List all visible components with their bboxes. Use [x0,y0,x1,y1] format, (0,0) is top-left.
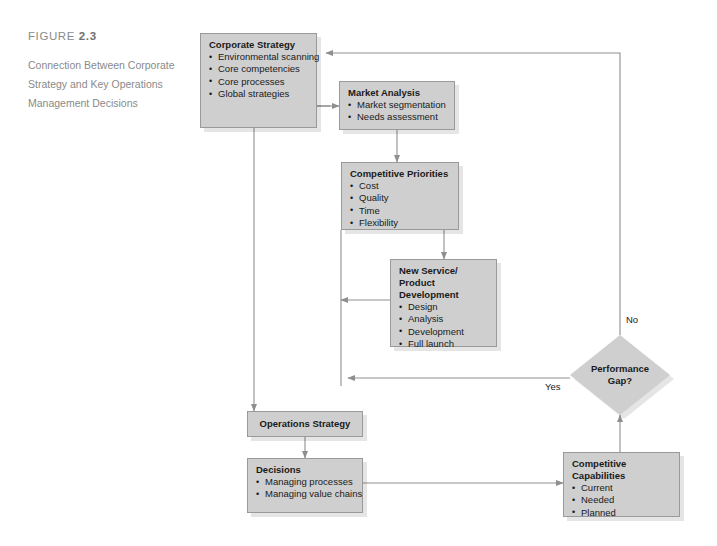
edge-label-no: No [626,314,638,325]
list-item: Market segmentation [348,99,447,111]
list-item: Development [399,326,489,338]
edge-label-yes: Yes [545,381,561,392]
list-item: Time [350,205,451,217]
node-corporate-strategy[interactable]: Corporate Strategy Environmental scannin… [200,33,317,128]
node-item-list: Market segmentation Needs assessment [348,99,447,124]
list-item: Managing value chains [256,488,355,500]
list-item: Quality [350,192,451,204]
list-item: Core processes [209,76,309,88]
node-title: Decisions [256,464,355,476]
list-item: Core competencies [209,63,309,75]
node-competitive-capabilities[interactable]: Competitive Capabilities Current Needed … [563,452,680,517]
figure-label-word: FIGURE [28,30,75,42]
figure-caption-text: Connection Between Corporate Strategy an… [28,56,188,113]
list-item: Needs assessment [348,111,447,123]
node-item-list: Environmental scanning Core competencies… [209,51,309,101]
node-item-list: Cost Quality Time Flexibility [350,180,451,230]
figure-page: FIGURE 2.3 Connection Between Corporate … [0,0,717,546]
list-item: Managing processes [256,476,355,488]
figure-label-number: 2.3 [79,30,97,42]
list-item: Full launch [399,338,489,350]
list-item: Planned [572,507,672,519]
figure-caption-line-2: Strategy and Key Operations [28,75,188,94]
list-item: Environmental scanning [209,51,309,63]
node-new-service-product-development[interactable]: New Service/ Product Development Design … [390,259,497,347]
node-item-list: Current Needed Planned [572,482,672,519]
figure-label: FIGURE 2.3 [28,30,188,42]
node-item-list: Design Analysis Development Full launch [399,301,489,351]
list-item: Current [572,482,672,494]
node-decisions[interactable]: Decisions Managing processes Managing va… [247,458,363,513]
node-title: Competitive Priorities [350,168,451,180]
node-performance-gap[interactable]: Performance Gap? [570,335,670,415]
node-title: Performance Gap? [570,335,670,415]
list-item: Flexibility [350,217,451,229]
node-title: Corporate Strategy [209,39,309,51]
node-item-list: Managing processes Managing value chains [256,476,355,501]
figure-caption-line-1: Connection Between Corporate [28,56,188,75]
figure-caption-line-3: Management Decisions [28,94,188,113]
list-item: Cost [350,180,451,192]
list-item: Needed [572,494,672,506]
figure-caption: FIGURE 2.3 Connection Between Corporate … [28,30,188,113]
node-title: Competitive Capabilities [572,458,672,482]
node-title: Operations Strategy [260,418,351,430]
node-competitive-priorities[interactable]: Competitive Priorities Cost Quality Time… [341,162,459,230]
list-item: Design [399,301,489,313]
node-operations-strategy[interactable]: Operations Strategy [247,411,363,437]
node-title: Market Analysis [348,87,447,99]
list-item: Global strategies [209,88,309,100]
list-item: Analysis [399,313,489,325]
node-title: New Service/ Product Development [399,265,489,301]
node-market-analysis[interactable]: Market Analysis Market segmentation Need… [339,81,455,130]
